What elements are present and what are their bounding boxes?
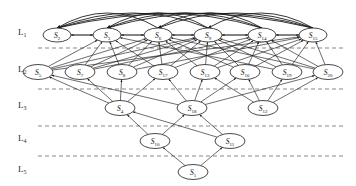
- edge-n20-to-n14: [271, 40, 318, 66]
- edge-n12-to-n19: [268, 79, 283, 101]
- level-label-l5: L5: [18, 164, 27, 175]
- node-s10[interactable]: S10: [140, 134, 170, 149]
- node-s13[interactable]: S13: [190, 65, 220, 80]
- node-s14[interactable]: S14: [248, 28, 276, 42]
- node-s1[interactable]: S1: [178, 165, 208, 180]
- edge-n1-to-n11: [201, 147, 223, 165]
- node-s3[interactable]: S3: [93, 28, 121, 42]
- edge-n12-to-n16: [249, 79, 260, 100]
- node-s15[interactable]: S15: [299, 28, 327, 42]
- level-labels: L1L2L3L4L5: [18, 27, 27, 175]
- node-s16[interactable]: S16: [230, 65, 260, 80]
- arc-n6-to-n2: [57, 13, 158, 28]
- edges-level4-to-level3: [127, 112, 222, 137]
- edge-n10-to-n4: [127, 115, 148, 135]
- edge-n18-to-n20: [205, 76, 314, 105]
- edge-n10-to-n18: [162, 115, 184, 135]
- edge-n8-to-n6: [129, 41, 152, 65]
- node-s18[interactable]: S18: [177, 101, 207, 116]
- level-label-l4: L4: [18, 133, 27, 144]
- edge-n8-to-n3: [110, 42, 119, 65]
- node-s6[interactable]: S6: [144, 28, 172, 42]
- edge-n4-to-n8: [120, 80, 121, 101]
- edge-n1-to-n10: [163, 147, 185, 165]
- node-s4[interactable]: S4: [105, 101, 135, 116]
- node-s7[interactable]: S7: [65, 65, 95, 80]
- edges-level1-arcs: [57, 13, 313, 28]
- edge-n17-to-n14: [175, 39, 251, 67]
- edge-n16-to-n14: [248, 42, 259, 65]
- node-s19[interactable]: S19: [272, 65, 302, 80]
- layered-graph-diagram: S2S3S6S9S14S15S5S7S8S17S13S16S19S20S4S18…: [0, 0, 356, 186]
- level-label-l1: L1: [18, 27, 27, 38]
- level-label-l3: L3: [18, 100, 27, 111]
- edge-n18-to-n17: [169, 79, 187, 101]
- edge-n11-to-n4: [133, 112, 217, 137]
- edge-n11-to-n18: [199, 115, 222, 135]
- edge-n20-to-n15: [316, 42, 325, 65]
- node-s8[interactable]: S8: [107, 65, 137, 80]
- edges-level5-to-level4: [163, 147, 222, 165]
- edge-n18-to-n16: [201, 78, 236, 102]
- level-label-l2: L2: [18, 64, 27, 75]
- edge-n18-to-n13: [195, 79, 203, 100]
- node-s20[interactable]: S20: [313, 65, 343, 80]
- figure-canvas: S2S3S6S9S14S15S5S7S8S17S13S16S19S20S4S18…: [0, 0, 356, 186]
- node-s5[interactable]: S5: [23, 65, 53, 80]
- edge-n12-to-n13: [214, 78, 253, 102]
- edge-n5-to-n3: [48, 40, 97, 66]
- node-s11[interactable]: S11: [215, 134, 245, 149]
- edge-n12-to-n20: [273, 78, 318, 103]
- edge-n4-to-n7: [87, 79, 112, 102]
- node-s2[interactable]: S2: [43, 28, 71, 42]
- node-s17[interactable]: S17: [148, 65, 178, 80]
- edges-level3-to-level2: [49, 75, 318, 105]
- edge-n4-to-n17: [128, 78, 156, 101]
- edge-n17-to-n3: [115, 41, 154, 66]
- node-s12[interactable]: S12: [248, 101, 278, 116]
- node-s9[interactable]: S9: [194, 28, 222, 42]
- edge-n7-to-n14: [94, 38, 249, 70]
- arc-n15-to-n9: [208, 13, 313, 28]
